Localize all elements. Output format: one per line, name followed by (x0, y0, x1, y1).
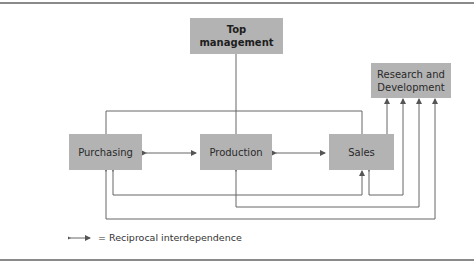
hierarchy-branch (106, 111, 362, 134)
node-sales: Sales (329, 134, 394, 170)
node-production: Production (200, 134, 272, 170)
double-arrow-icon (68, 233, 92, 243)
bottom-rule (0, 259, 474, 261)
node-purchasing: Purchasing (69, 134, 142, 170)
arrow-sales-purchasing (113, 171, 362, 195)
node-research-development: Research and Development (371, 63, 451, 98)
legend: = Reciprocal interdependence (68, 232, 242, 243)
node-top-management: Top management (190, 18, 283, 54)
legend-label: = Reciprocal interdependence (98, 232, 242, 243)
